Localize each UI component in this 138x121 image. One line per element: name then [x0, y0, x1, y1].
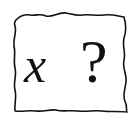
question-mark: ? — [80, 30, 108, 92]
variable-x: x — [24, 40, 46, 90]
wavy-border — [0, 0, 138, 121]
unknown-variable-card: x ? — [0, 0, 138, 121]
